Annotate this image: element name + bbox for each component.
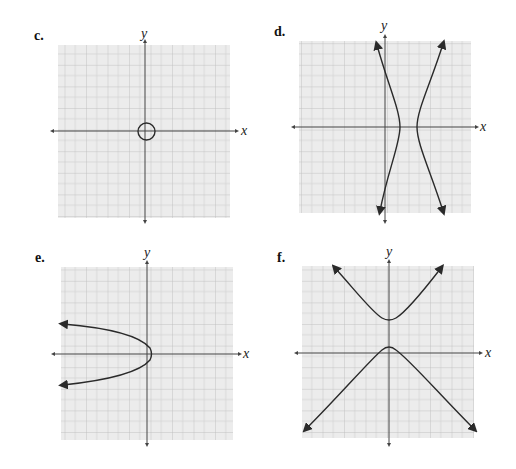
- panel-e: e. x y: [35, 245, 250, 445]
- y-axis-label-c: y: [139, 26, 148, 41]
- grid-f: [302, 266, 474, 438]
- panel-f: f. x y: [277, 244, 492, 445]
- x-axis-label-c: x: [240, 123, 248, 138]
- panel-d: d. x y: [274, 18, 487, 222]
- panel-c: c. x y: [34, 26, 248, 222]
- x-axis-label-e: x: [242, 346, 250, 361]
- panel-label-c: c.: [34, 28, 44, 43]
- y-axis-label-f: y: [384, 244, 393, 259]
- panel-label-e: e.: [35, 250, 45, 265]
- panel-label-f: f.: [277, 250, 285, 265]
- y-axis-label-e: y: [142, 245, 151, 260]
- y-axis-label-d: y: [379, 18, 388, 33]
- panel-label-d: d.: [274, 24, 285, 39]
- x-axis-label-d: x: [479, 119, 487, 134]
- x-axis-label-f: x: [484, 345, 492, 360]
- figure-canvas: c. x y d. x y e. x y f. x y: [0, 0, 516, 469]
